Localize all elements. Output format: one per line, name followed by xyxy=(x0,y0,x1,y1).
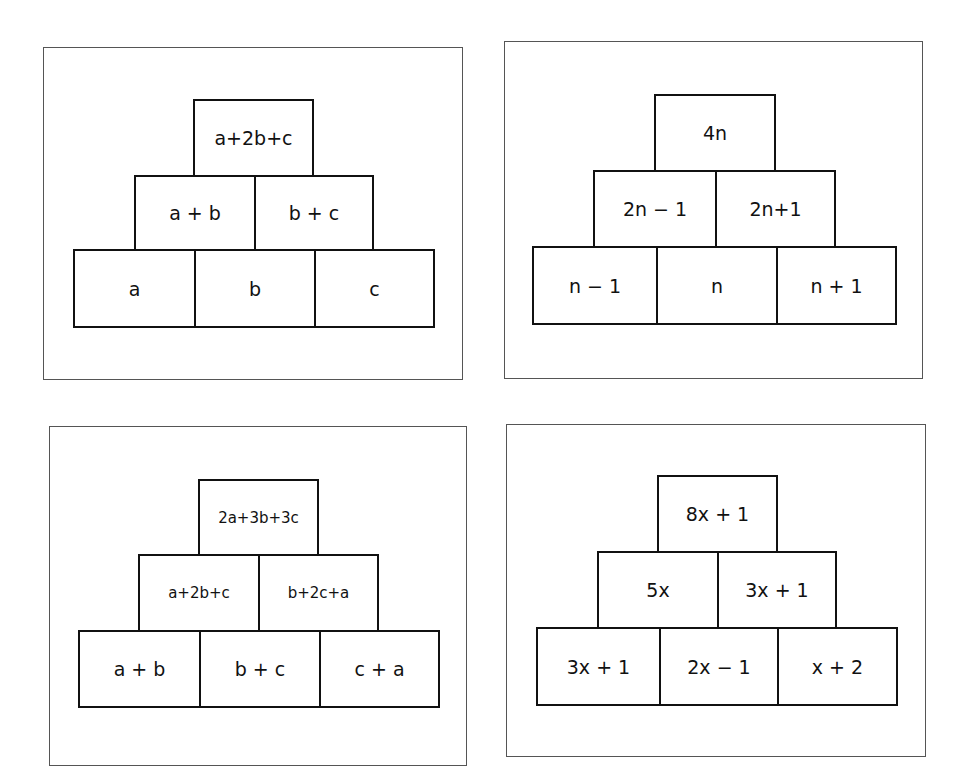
pyramid-3-bottom-brick-3: c + a xyxy=(319,630,440,708)
pyramid-3-middle-brick-1: a+2b+c xyxy=(138,554,260,632)
pyramid-1-middle-brick-1: a + b xyxy=(134,175,256,251)
pyramid-2-top-brick: 4n xyxy=(654,94,776,172)
pyramid-1-middle-brick-2: b + c xyxy=(254,175,374,251)
pyramid-2-bottom-brick-1: n − 1 xyxy=(532,246,658,325)
pyramid-2-bottom-brick-2: n xyxy=(656,246,778,325)
pyramid-3-middle-brick-2: b+2c+a xyxy=(258,554,379,632)
pyramid-2-bottom-brick-3: n + 1 xyxy=(776,246,897,325)
pyramid-4-bottom-brick-2: 2x − 1 xyxy=(659,627,779,706)
pyramid-1-bottom-brick-1: a xyxy=(73,249,196,328)
pyramid-3-bottom-brick-1: a + b xyxy=(78,630,201,708)
pyramid-1-bottom-brick-3: c xyxy=(314,249,435,328)
pyramid-4-bottom-brick-1: 3x + 1 xyxy=(536,627,661,706)
pyramid-4-bottom-brick-3: x + 2 xyxy=(777,627,898,706)
pyramid-4-middle-brick-2: 3x + 1 xyxy=(717,551,837,629)
pyramid-1-top-brick: a+2b+c xyxy=(193,99,314,177)
pyramid-3-top-brick: 2a+3b+3c xyxy=(198,479,319,556)
pyramid-4-middle-brick-1: 5x xyxy=(597,551,719,629)
pyramid-2-middle-brick-2: 2n+1 xyxy=(715,170,836,248)
pyramid-4-top-brick: 8x + 1 xyxy=(657,475,778,553)
pyramid-1-bottom-brick-2: b xyxy=(194,249,316,328)
pyramid-2-middle-brick-1: 2n − 1 xyxy=(593,170,717,248)
pyramid-3-bottom-brick-2: b + c xyxy=(199,630,321,708)
